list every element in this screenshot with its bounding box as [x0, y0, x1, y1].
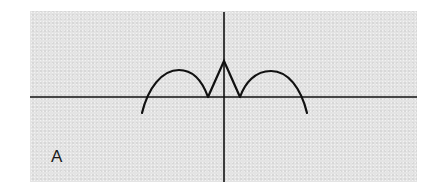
panel-label: A: [51, 148, 62, 165]
left-arc: [142, 70, 208, 113]
function-plot: [0, 0, 440, 187]
right-arc: [240, 71, 307, 113]
